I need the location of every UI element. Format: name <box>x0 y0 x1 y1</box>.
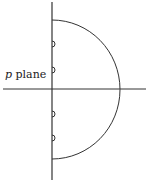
p-plane-diagram <box>0 0 148 184</box>
plane-label: p plane <box>5 68 46 81</box>
plane-text: plane <box>16 68 47 81</box>
plane-variable: p <box>5 68 12 81</box>
